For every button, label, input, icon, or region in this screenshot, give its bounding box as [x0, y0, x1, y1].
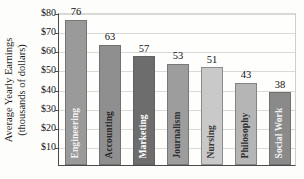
bar[interactable]: Philosophy: [235, 83, 256, 165]
bar-group[interactable]: Marketing57: [133, 12, 154, 165]
bar-category-label: Philosophy: [241, 112, 251, 158]
bar-group[interactable]: Accounting63: [99, 12, 120, 165]
bar[interactable]: Accounting: [99, 45, 120, 165]
bars-layer: Engineering76Accounting63Marketing57Jour…: [59, 14, 295, 165]
bar-group[interactable]: Journalism53: [167, 12, 188, 165]
y-axis-tick-label: $80: [26, 8, 56, 18]
bar-category-label: Nursing: [207, 125, 217, 158]
bar[interactable]: Marketing: [133, 56, 154, 165]
y-axis-title-line1: Average Yearly Earnings: [3, 37, 16, 141]
y-axis-tick-label: $60: [26, 46, 56, 56]
plot-area: Engineering76Accounting63Marketing57Jour…: [58, 13, 296, 166]
bar-value-label: 76: [71, 7, 82, 18]
y-axis-tick-label: $70: [26, 27, 56, 37]
bar-category-label: Accounting: [105, 111, 115, 158]
y-axis-tick-label: $30: [26, 104, 56, 114]
bar[interactable]: Nursing: [201, 67, 222, 165]
bar-group[interactable]: Nursing51: [201, 12, 222, 165]
bar-category-label: Social Work: [275, 107, 285, 158]
y-axis-tick-labels: $80$70$60$50$40$30$20$10: [26, 0, 56, 179]
bar-group[interactable]: Philosophy43: [235, 12, 256, 165]
bar-chart: Average Yearly Earnings (thousands of do…: [0, 0, 304, 179]
bar[interactable]: Engineering: [65, 20, 86, 165]
bar-group[interactable]: Engineering76: [65, 12, 86, 165]
bar-category-label: Marketing: [139, 114, 149, 158]
bar-value-label: 53: [173, 51, 184, 62]
y-axis-tick-label: $20: [26, 123, 56, 133]
bar-value-label: 63: [105, 32, 116, 43]
bar-value-label: 43: [241, 70, 252, 81]
bar-group[interactable]: Social Work38: [269, 12, 290, 165]
bar-value-label: 57: [139, 44, 150, 55]
bar-category-label: Engineering: [71, 107, 81, 158]
y-axis-tick-label: $40: [26, 85, 56, 95]
bar-value-label: 38: [275, 80, 286, 91]
y-axis-tick-label: $50: [26, 65, 56, 75]
bar[interactable]: Journalism: [167, 64, 188, 165]
bar-category-label: Journalism: [173, 111, 183, 158]
y-axis-tick-label: $10: [26, 142, 56, 152]
bar-value-label: 51: [207, 55, 218, 66]
bar[interactable]: Social Work: [269, 92, 290, 165]
